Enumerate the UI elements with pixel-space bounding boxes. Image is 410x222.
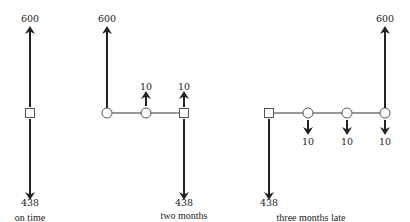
down-value-10: 10 xyxy=(341,136,353,147)
up-value-10: 10 xyxy=(140,81,152,92)
diagram-three-months-late: 438 10 10 600 10 three months late xyxy=(260,13,394,222)
caption-three-months-late: three months late xyxy=(277,212,346,222)
circle-node xyxy=(380,108,390,118)
cash-flow-diagrams: 600 438 on time 600 10 10 438 two months… xyxy=(0,0,410,222)
diagram-two-months-early: 600 10 10 438 two months early xyxy=(98,13,208,222)
circle-node xyxy=(102,108,112,118)
circle-node xyxy=(342,108,352,118)
square-node xyxy=(26,109,35,118)
square-node xyxy=(180,109,189,118)
square-node xyxy=(265,109,274,118)
diagram-on-time: 600 438 on time xyxy=(15,13,46,222)
down-value-438: 438 xyxy=(260,197,278,208)
up-value-600: 600 xyxy=(21,13,39,24)
circle-node xyxy=(141,108,151,118)
up-value-600: 600 xyxy=(98,13,116,24)
down-value-438: 438 xyxy=(175,197,193,208)
down-value-10: 10 xyxy=(379,136,391,147)
down-value-10: 10 xyxy=(302,136,314,147)
up-value-10: 10 xyxy=(178,81,190,92)
caption-on-time: on time xyxy=(15,212,46,222)
down-value-438: 438 xyxy=(21,197,39,208)
circle-node xyxy=(303,108,313,118)
up-value-600: 600 xyxy=(376,13,394,24)
caption-two-months: two months xyxy=(161,210,208,221)
